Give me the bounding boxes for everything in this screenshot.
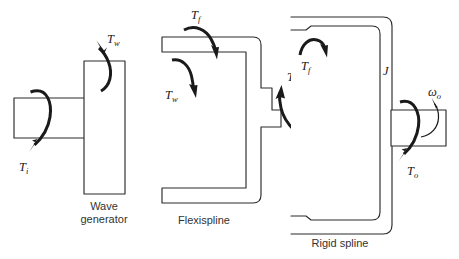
wave-generator-body [84,61,125,194]
torque-flexispline-top-label: Tf [191,8,202,24]
flexispline-caption: Flexispline [178,214,230,226]
flexispline-group: Tf Tw Tf Flexispline [162,8,298,226]
torque-flexispline-right-arrowhead [276,85,286,99]
torque-input-arrowhead [29,139,38,152]
rigid-spline-caption: Rigid spline [312,237,369,249]
torque-wave-flexispline-label: Tw [165,88,178,104]
harmonic-drive-diagram: Ti Tw Wave generator Tf Tw Tf [0,0,459,259]
rigid-spline-inner-wall [291,26,380,220]
torque-input-label: Ti [19,160,29,176]
torque-wave-flexispline-arrowhead [189,84,198,98]
rigid-spline-group: Tf J To ωo Rigid spline [291,17,446,249]
wave-generator-shaft [14,98,91,138]
torque-output-arrowhead [399,148,408,162]
wave-generator-caption-line2: generator [80,213,127,225]
torque-output-label: To [407,164,418,180]
wave-generator-group: Ti Tw Wave generator [14,32,128,225]
wave-generator-caption-line1: Wave [90,200,118,212]
omega-output-label: ωo [428,85,441,101]
torque-wave-label: Tw [107,32,120,48]
diagram-canvas: Ti Tw Wave generator Tf Tw Tf [0,0,459,259]
